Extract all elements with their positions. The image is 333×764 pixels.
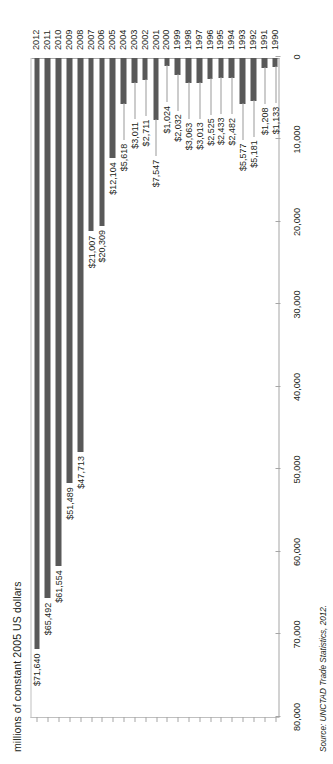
category-label: 2002: [139, 30, 149, 50]
bar-row: $7,547: [153, 58, 159, 717]
bar: [174, 58, 180, 75]
category-tick: [156, 717, 157, 722]
bar-value-label: $2,482: [226, 118, 236, 146]
category-label: 2005: [106, 30, 116, 50]
label-leader-line: [231, 77, 232, 114]
category-tick: [112, 717, 113, 722]
category-label: 1993: [236, 30, 246, 50]
bar-value-label: $2,032: [172, 114, 182, 142]
bar-value-label: $7,547: [150, 160, 160, 188]
category-tick: [91, 717, 92, 722]
label-leader-line: [275, 66, 276, 103]
bar: [153, 58, 159, 120]
value-tick-label: 80,000: [291, 703, 301, 731]
bar-row: $3,013: [196, 58, 202, 717]
bar-row: $65,492: [44, 58, 50, 717]
bar-row: $1,024: [164, 58, 170, 717]
value-tick-label: 30,000: [291, 290, 301, 318]
label-leader-line: [145, 79, 146, 116]
category-tick: [134, 717, 135, 722]
bar-value-label: $51,489: [64, 487, 74, 520]
value-tick-label: 70,000: [291, 620, 301, 648]
category-label: 1998: [182, 30, 192, 50]
bar: [196, 58, 202, 83]
value-tick: [275, 56, 280, 57]
category-label: 1996: [204, 30, 214, 50]
bar: [34, 58, 40, 649]
bar-value-label: $71,640: [31, 653, 41, 686]
category-label: 2009: [63, 30, 73, 50]
category-tick: [47, 717, 48, 722]
bar: [109, 58, 115, 158]
bar-row: $2,482: [228, 58, 234, 717]
bar-row: $1,133: [272, 58, 278, 717]
bar: [185, 58, 191, 83]
category-tick: [123, 717, 124, 722]
label-leader-line: [210, 78, 211, 115]
label-leader-line: [253, 100, 254, 137]
bar-row: $47,713: [77, 58, 83, 717]
category-tick: [166, 717, 167, 722]
category-label: 2007: [85, 30, 95, 50]
bar-value-label: $21,007: [86, 236, 96, 269]
bar-value-label: $2,525: [205, 118, 215, 146]
bar: [44, 58, 50, 598]
bar-value-label: $2,711: [140, 120, 150, 147]
bar: [131, 58, 137, 83]
category-label: 2006: [95, 30, 105, 50]
category-tick: [188, 717, 189, 722]
label-leader-line: [134, 82, 135, 119]
category-label: 2011: [41, 30, 51, 50]
category-label: 2010: [52, 30, 62, 50]
category-tick: [210, 717, 211, 722]
bar: [142, 58, 148, 80]
category-tick: [231, 717, 232, 722]
bar-value-label: $65,492: [42, 603, 52, 636]
value-tick-label: 60,000: [291, 538, 301, 566]
category-label: 2000: [160, 30, 170, 50]
bar-value-label: $12,104: [107, 162, 117, 195]
category-tick: [242, 717, 243, 722]
category-tick: [145, 717, 146, 722]
figure: millions of constant 2005 US dollars 010…: [0, 0, 333, 764]
bar-row: $5,577: [239, 58, 245, 717]
category-tick: [253, 717, 254, 722]
label-leader-line: [123, 103, 124, 140]
bar: [218, 58, 224, 78]
bar-row: $21,007: [88, 58, 94, 717]
bar-row: $61,554: [55, 58, 61, 717]
bar-row: $2,433: [218, 58, 224, 717]
bar: [66, 58, 72, 483]
category-label: 2004: [117, 30, 127, 50]
category-label: 1992: [247, 30, 257, 50]
category-tick: [58, 717, 59, 722]
bar: [120, 58, 126, 104]
bar: [250, 58, 256, 101]
bar-value-label: $61,554: [53, 570, 63, 603]
bar-row: $2,032: [174, 58, 180, 717]
value-tick-label: 20,000: [291, 208, 301, 236]
label-leader-line: [264, 67, 265, 104]
bar-value-label: $5,618: [118, 144, 128, 172]
bar: [55, 58, 61, 566]
label-leader-line: [242, 103, 243, 140]
category-tick: [36, 717, 37, 722]
bar-value-label: $5,181: [248, 140, 258, 168]
bar-row: $2,711: [142, 58, 148, 717]
value-tick-label: 0: [291, 54, 301, 59]
bar: [77, 58, 83, 452]
value-tick-label: 10,000: [291, 125, 301, 153]
category-label: 2012: [30, 30, 40, 50]
bar-value-label: $2,433: [215, 118, 225, 146]
source-note: Source: UNCTAD Trade Statistics, 2012.: [318, 605, 327, 752]
bar-row: $1,208: [261, 58, 267, 717]
plot-area: 010,00020,00030,00040,00050,00060,00070,…: [30, 58, 279, 718]
category-label: 2008: [74, 30, 84, 50]
bar-row: $3,011: [131, 58, 137, 717]
category-label: 2001: [150, 30, 160, 50]
value-tick-label: 50,000: [291, 455, 301, 483]
category-tick: [199, 717, 200, 722]
category-tick: [220, 717, 221, 722]
bar: [99, 58, 105, 226]
category-label: 1990: [269, 30, 279, 50]
